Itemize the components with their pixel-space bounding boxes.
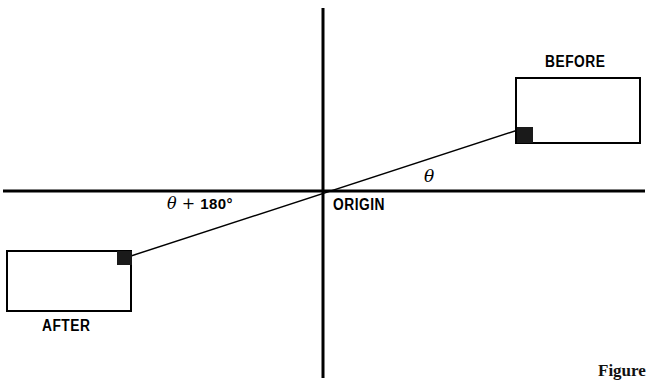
before-corner-marker: [517, 127, 533, 143]
after-rectangle: [7, 251, 131, 311]
theta-symbol: θ: [167, 194, 177, 213]
before-rectangle: [516, 78, 640, 143]
origin-label: ORIGIN: [333, 197, 385, 213]
figure-caption: Figure: [598, 362, 646, 379]
before-label: BEFORE: [545, 54, 605, 70]
degrees-value: 180°: [200, 195, 233, 212]
theta-angle-label: θ: [424, 168, 434, 185]
after-label: AFTER: [42, 318, 90, 334]
after-corner-marker: [117, 251, 132, 265]
plus-operator: +: [182, 194, 195, 213]
rotation-diagram-figure: BEFORE AFTER ORIGIN θ θ + 180° Figure: [0, 0, 647, 382]
theta-plus-180-label: θ + 180°: [167, 196, 233, 212]
